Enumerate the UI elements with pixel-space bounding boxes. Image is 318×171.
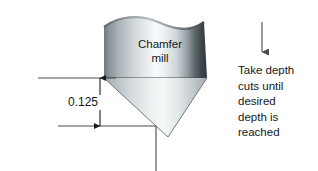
tool-label: Chamfer mill <box>118 38 202 65</box>
chamfer-mill-diagram: Chamfer mill 0.125 Take depth cuts until… <box>0 0 318 171</box>
note-line-1: Take depth <box>238 63 316 79</box>
tool-label-line-1: Chamfer <box>118 38 202 52</box>
tool-label-line-2: mill <box>118 52 202 66</box>
depth-dimension-label: 0.125 <box>40 95 98 109</box>
depth-cut-note: Take depth cuts until desired depth is r… <box>238 63 316 141</box>
note-line-5: reached <box>238 125 316 141</box>
note-line-2: cuts until <box>238 79 316 95</box>
note-line-3: desired <box>238 94 316 110</box>
note-line-4: depth is <box>238 110 316 126</box>
